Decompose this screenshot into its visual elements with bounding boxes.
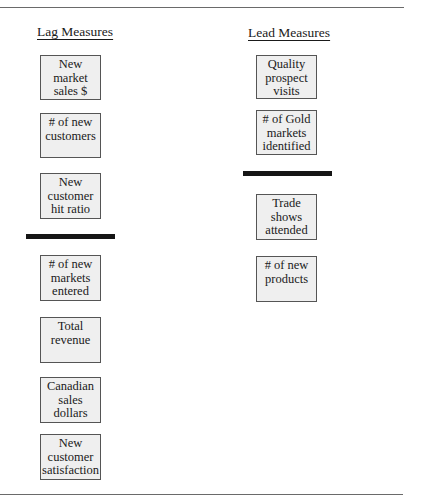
box-line: revenue [41,334,100,348]
lag-box-new-market-sales: New market sales $ [40,55,101,100]
box-line: satisfaction [41,464,100,478]
lead-box-trade-shows: Trade shows attended [256,194,317,240]
box-line: # of Gold [257,113,316,127]
box-line: sales [41,394,100,408]
lag-box-customer-satisfaction: New customer satisfaction [40,434,101,480]
box-line: Canadian [41,380,100,394]
box-line: market [41,72,100,86]
lag-divider-bar [26,234,115,239]
box-line: prospect [257,72,316,86]
box-line: dollars [41,407,100,421]
lead-box-gold-markets: # of Gold markets identified [256,110,317,155]
box-line: # of new [41,116,100,130]
box-line: markets [257,127,316,141]
bottom-rule [0,494,403,495]
box-line: entered [41,285,100,299]
lag-box-total-revenue: Total revenue [40,317,101,363]
lag-measures-heading: Lag Measures [37,24,113,40]
box-line: Trade [257,197,316,211]
box-line: Quality [257,58,316,72]
box-line: customers [41,130,100,144]
box-line: New [41,437,100,451]
box-line: # of new [257,259,316,273]
box-line: sales $ [41,85,100,99]
box-line: shows [257,211,316,225]
lag-box-hit-ratio: New customer hit ratio [40,173,101,219]
box-line: attended [257,224,316,238]
lead-box-new-products: # of new products [256,256,317,302]
box-line: New [41,176,100,190]
box-line: # of new [41,258,100,272]
box-line: identified [257,140,316,154]
top-rule [0,7,404,8]
lag-box-new-customers: # of new customers [40,113,101,158]
lag-box-new-markets-entered: # of new markets entered [40,255,101,301]
box-line: New [41,58,100,72]
box-line: products [257,273,316,287]
box-line: markets [41,272,100,286]
lead-measures-heading: Lead Measures [248,25,330,41]
box-line: customer [41,451,100,465]
lead-box-quality-prospect-visits: Quality prospect visits [256,55,317,99]
box-line: visits [257,85,316,99]
lag-box-canadian-sales: Canadian sales dollars [40,377,101,423]
box-line: hit ratio [41,203,100,217]
box-line: Total [41,320,100,334]
box-line: customer [41,190,100,204]
lead-divider-bar [243,171,332,176]
